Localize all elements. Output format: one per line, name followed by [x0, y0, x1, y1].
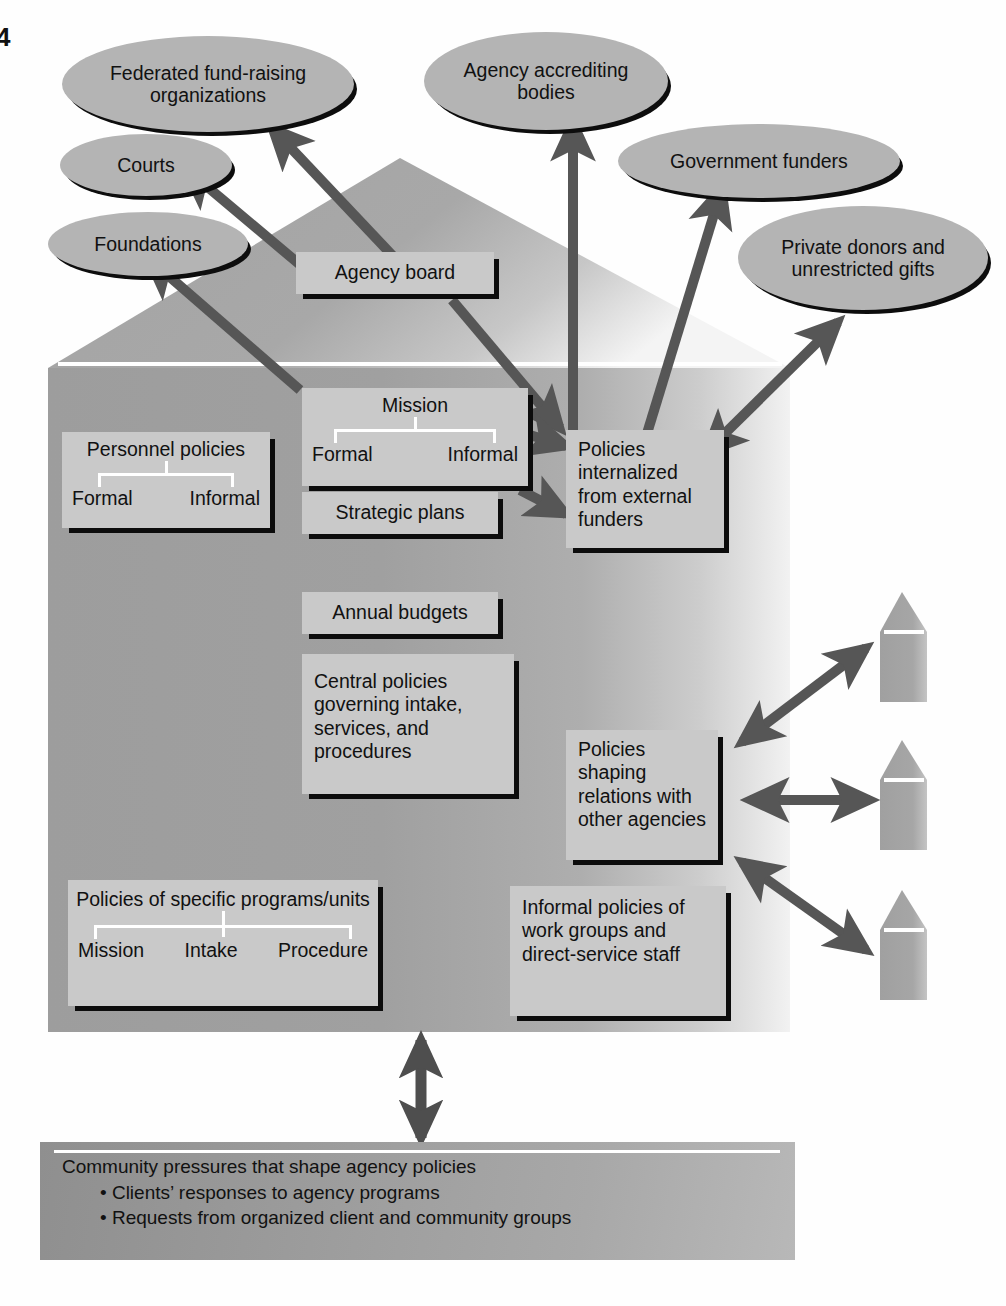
mission-label: Mission: [312, 394, 518, 417]
box-informal-policies[interactable]: Informal policies of work groups and dir…: [510, 886, 726, 1016]
box-strategic-plans[interactable]: Strategic plans: [302, 492, 498, 534]
box-agency-board[interactable]: Agency board: [296, 252, 494, 294]
bracket-stem: [222, 911, 225, 937]
box-personnel-policies[interactable]: Personnel policies Formal Informal: [62, 432, 270, 528]
slab-top-rule: [54, 1150, 780, 1153]
personnel-policies-label: Personnel policies: [72, 438, 260, 461]
diagram-canvas: 4: [0, 0, 1006, 1306]
specific-sub-procedure: Procedure: [278, 939, 368, 962]
box-policies-internalized[interactable]: Policies internalized from external fund…: [566, 430, 724, 548]
specific-sub-mission: Mission: [78, 939, 144, 962]
arrow-board-to-foundations: [148, 258, 300, 390]
mission-sub-informal: Informal: [448, 443, 518, 466]
entity-foundations[interactable]: Foundations: [48, 212, 248, 276]
arrow-board-to-federated: [272, 128, 408, 272]
box-annual-budgets[interactable]: Annual budgets: [302, 592, 498, 634]
bracket-leg-right: [231, 473, 234, 487]
entity-federated-fund-raising[interactable]: Federated fund-raising organizations: [62, 36, 354, 132]
community-bullet-2: • Requests from organized client and com…: [100, 1205, 795, 1231]
bracket-bar: [98, 473, 234, 476]
bracket-bar: [94, 925, 352, 928]
bracket-leg-right: [349, 925, 352, 939]
box-specific-programs[interactable]: Policies of specific programs/units Miss…: [68, 880, 378, 1006]
arrow-board-to-government: [645, 188, 722, 440]
box-policies-shaping-relations[interactable]: Policies shaping relations with other ag…: [566, 730, 718, 860]
community-pressures-slab[interactable]: Community pressures that shape agency po…: [40, 1142, 795, 1260]
personnel-sub-informal: Informal: [190, 487, 260, 510]
entity-government-funders[interactable]: Government funders: [618, 124, 900, 198]
personnel-sub-formal: Formal: [72, 487, 133, 510]
specific-sub-intake: Intake: [185, 939, 238, 962]
specific-programs-label: Policies of specific programs/units: [76, 888, 370, 911]
arrow-relations-house1: [742, 648, 866, 742]
entity-agency-accrediting-bodies[interactable]: Agency accrediting bodies: [424, 32, 668, 130]
mission-sub-formal: Formal: [312, 443, 373, 466]
bracket-leg-left: [334, 429, 337, 443]
box-central-policies[interactable]: Central policies governing intake, servi…: [302, 654, 514, 794]
community-bullet-1: • Clients’ responses to agency programs: [100, 1180, 795, 1206]
box-mission[interactable]: Mission Formal Informal: [302, 388, 528, 486]
bracket-leg-right: [493, 429, 496, 443]
entity-courts[interactable]: Courts: [60, 134, 232, 196]
entity-private-donors[interactable]: Private donors and unrestricted gifts: [738, 206, 988, 310]
bracket-bar: [334, 429, 496, 432]
bracket-leg-left: [94, 925, 97, 939]
arrow-relations-house3: [742, 862, 866, 950]
arrow-internalized-private-donors: [706, 322, 838, 452]
arrow-strategic-to-internalized: [520, 490, 566, 514]
community-heading: Community pressures that shape agency po…: [62, 1154, 795, 1180]
bracket-leg-left: [98, 473, 101, 487]
